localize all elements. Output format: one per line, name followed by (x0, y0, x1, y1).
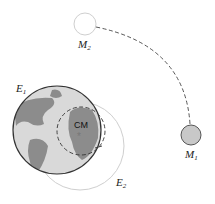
earth-moon-diagram: CM * M2 M1 E1 E2 (0, 0, 215, 204)
cm-marker-icon: * (77, 131, 81, 142)
earth-e1 (13, 86, 101, 174)
moon-m1-label: M1 (184, 148, 198, 162)
earth-e2-label: E2 (115, 176, 127, 190)
earth-e1-label: E1 (15, 82, 26, 96)
cm-label: CM (74, 120, 88, 130)
moon-m1 (181, 125, 201, 145)
moon-m2-label: M2 (77, 38, 91, 52)
moon-m2-outline (74, 13, 96, 35)
moon-orbit-path (96, 27, 190, 124)
